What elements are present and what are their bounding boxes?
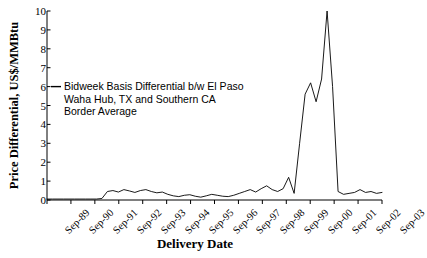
x-tick-label: Sep-03 <box>398 207 427 236</box>
legend-label-line-2: Waha Hub, TX and Southern CA <box>64 93 216 106</box>
x-tick-marks <box>47 200 382 204</box>
legend-label-line-3: Border Average <box>64 105 137 118</box>
legend-label-line-1: Bidweek Basis Differential b/w El Paso <box>64 80 244 93</box>
y-tick-marks <box>47 11 51 200</box>
